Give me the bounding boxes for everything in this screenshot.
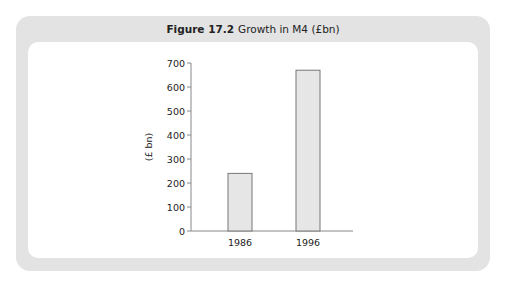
y-axis-label: (£ bn) bbox=[143, 133, 154, 162]
y-tick-label: 100 bbox=[167, 202, 185, 213]
y-tick-label: 600 bbox=[167, 82, 185, 93]
x-tick-label: 1996 bbox=[296, 237, 320, 248]
bar-chart: 0100200300400500600700(£ bn)19861996 bbox=[0, 0, 507, 288]
y-tick-label: 700 bbox=[167, 58, 185, 69]
x-tick-label: 1986 bbox=[228, 237, 252, 248]
y-tick-label: 500 bbox=[167, 106, 185, 117]
y-tick-label: 200 bbox=[167, 178, 185, 189]
y-tick-label: 400 bbox=[167, 130, 185, 141]
bar-1986 bbox=[228, 173, 252, 231]
y-tick-label: 0 bbox=[179, 226, 185, 237]
bar-1996 bbox=[296, 70, 320, 231]
y-tick-label: 300 bbox=[167, 154, 185, 165]
